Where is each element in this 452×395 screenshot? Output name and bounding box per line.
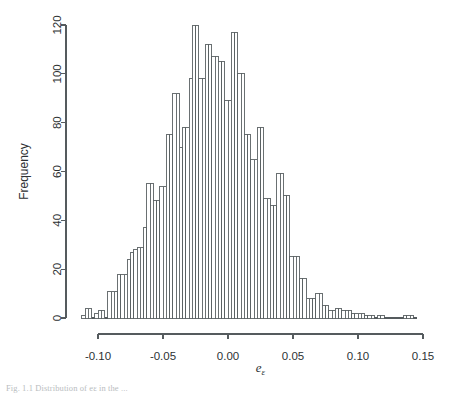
histogram-bar: [176, 93, 179, 318]
histogram-bar: [326, 306, 329, 318]
histogram-bar: [313, 298, 316, 318]
histogram-bar: [254, 159, 257, 318]
y-axis-tick-label: 60: [51, 165, 63, 178]
histogram-bar: [111, 291, 114, 318]
figure-caption: Fig. 1.1 Distribution of eε in the ...: [0, 381, 452, 395]
histogram-bar: [95, 313, 98, 318]
histogram-bar: [358, 313, 361, 318]
histogram-bar: [163, 186, 166, 318]
histogram-bar: [248, 135, 251, 318]
histogram-bar: [241, 74, 244, 318]
histogram-bar: [88, 308, 91, 318]
histogram-bar: [153, 201, 156, 318]
histogram-bar: [244, 135, 247, 318]
histogram-bar: [381, 316, 384, 318]
histogram-bar: [303, 279, 306, 318]
histogram-bar: [257, 128, 260, 318]
histogram-bar: [283, 196, 286, 318]
histogram-bar: [209, 45, 212, 318]
histogram-bar: [225, 101, 228, 318]
histogram-bar: [316, 294, 319, 318]
histogram-bar: [306, 298, 309, 318]
histogram-bar: [183, 128, 186, 318]
x-axis-title-subscript: ε: [262, 367, 266, 377]
y-axis-tick-label: 40: [51, 214, 63, 227]
histogram-bar: [267, 198, 270, 318]
y-axis-tick-label: 20: [51, 263, 63, 276]
histogram-bar: [114, 291, 117, 318]
histogram-bar: [296, 257, 299, 318]
y-axis-tick-label: 0: [51, 315, 63, 321]
histogram-bar: [342, 311, 345, 318]
histogram-bar: [140, 247, 143, 318]
histogram-bar: [235, 32, 238, 318]
histogram-bar: [261, 128, 264, 318]
histogram-bar: [166, 135, 169, 318]
histogram-bar: [368, 316, 371, 318]
y-axis: 020406080100120Frequency: [17, 15, 66, 321]
histogram-bar: [202, 79, 205, 318]
x-axis-tick-label: -0.05: [150, 350, 176, 362]
histogram-bar: [345, 311, 348, 318]
histogram-bar: [124, 274, 127, 318]
histogram-bar: [410, 316, 413, 318]
histogram-bar: [144, 228, 147, 318]
histogram-bar: [287, 196, 290, 318]
histogram-bar: [218, 62, 221, 318]
histogram-bar: [98, 311, 101, 318]
histogram-bar: [277, 174, 280, 318]
histogram-bar: [212, 57, 215, 318]
histogram-bar: [365, 316, 368, 318]
histogram-bar: [150, 184, 153, 318]
histogram-bar: [404, 316, 407, 318]
histogram-bar: [264, 198, 267, 318]
histogram-bar: [121, 274, 124, 318]
histogram-bar: [160, 186, 163, 318]
histogram-bar: [332, 311, 335, 318]
x-axis-tick-label: 0.00: [217, 350, 239, 362]
histogram-bar: [274, 206, 277, 318]
x-axis-tick-label: 0.10: [347, 350, 369, 362]
y-axis-tick-label: 100: [51, 64, 63, 83]
histogram-bar: [355, 313, 358, 318]
x-axis-tick-label: -0.10: [85, 350, 111, 362]
y-axis-title: Frequency: [17, 143, 31, 200]
histogram-bar: [290, 257, 293, 318]
y-axis-tick-label: 120: [51, 15, 63, 34]
x-axis-tick-label: 0.05: [282, 350, 304, 362]
histogram-bar: [335, 308, 338, 318]
histogram-bar: [231, 32, 234, 318]
x-axis: -0.10-0.050.000.050.100.15eε: [85, 334, 434, 377]
histogram-bar: [228, 101, 231, 318]
x-axis-title: eε: [256, 360, 266, 377]
histogram-bar: [205, 45, 208, 318]
histogram-bar: [215, 57, 218, 318]
histogram-plot: 020406080100120Frequency-0.10-0.050.000.…: [0, 0, 452, 395]
histogram-bar: [101, 311, 104, 318]
histogram-bar: [173, 93, 176, 318]
histogram-bar: [189, 79, 192, 318]
histogram-bar: [371, 316, 374, 318]
x-axis-tick-label: 0.15: [412, 350, 434, 362]
bars-group: [82, 25, 417, 318]
histogram-bar: [300, 279, 303, 318]
histogram-bar: [85, 308, 88, 318]
histogram-bar: [322, 306, 325, 318]
histogram-bar: [352, 313, 355, 318]
histogram-bar: [192, 25, 195, 318]
histogram-bar: [251, 159, 254, 318]
histogram-bar: [222, 62, 225, 318]
figure-caption-strip: Fig. 1.1 Distribution of eε in the ...: [0, 381, 452, 395]
histogram-bar: [134, 250, 137, 318]
histogram-bar: [199, 79, 202, 318]
histogram-bar: [118, 274, 121, 318]
histogram-bar: [157, 201, 160, 318]
histogram-bar: [186, 128, 189, 318]
histogram-bar: [131, 252, 134, 318]
histogram-bar: [179, 147, 182, 318]
histogram-bar: [348, 311, 351, 318]
histogram-bar: [170, 135, 173, 318]
y-axis-tick-label: 80: [51, 116, 63, 129]
histogram-bar: [319, 294, 322, 318]
histogram-bar: [137, 247, 140, 318]
